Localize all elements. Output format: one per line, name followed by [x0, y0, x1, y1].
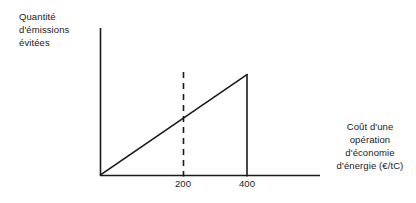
chart-figure: Quantité d'émissions évitées Coût d'une … [0, 0, 416, 203]
abatement-cost-curve [101, 75, 248, 176]
x-axis-label: Coût d'une opération d'économie d'énergi… [326, 120, 414, 172]
x-tick-label-400: 400 [227, 178, 267, 189]
x-tick-label-200: 200 [163, 178, 203, 189]
y-axis-label: Quantité d'émissions évitées [19, 10, 109, 49]
